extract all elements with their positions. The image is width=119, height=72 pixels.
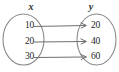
domain-value-1: 10	[14, 21, 34, 31]
mapping-diagram: x y 10 20 30 20 40 60	[0, 0, 119, 72]
domain-value-2: 20	[14, 37, 34, 47]
mapping-arrow-3	[34, 54, 87, 59]
range-value-1: 20	[91, 21, 111, 31]
mapping-arrow-2	[34, 39, 87, 44]
range-value-3: 60	[91, 52, 111, 62]
domain-value-3: 30	[14, 52, 34, 62]
range-value-2: 40	[91, 37, 111, 47]
